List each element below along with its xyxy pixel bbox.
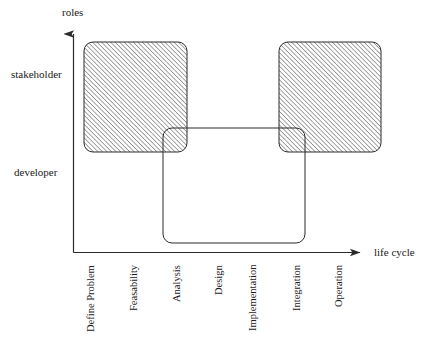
x-axis-tick-label: Implementation	[247, 265, 258, 331]
x-axis-tick-label: Feasability	[128, 265, 139, 311]
x-axis-title: life cycle	[374, 246, 415, 258]
y-axis-title: roles	[62, 6, 83, 18]
x-axis-tick-label: Define Problem	[85, 265, 96, 332]
x-axis-tick-label: Operation	[333, 265, 344, 307]
stakeholder-late-region	[279, 42, 381, 152]
roles-lifecycle-diagram: roles life cycle stakeholder developer D…	[0, 0, 427, 351]
role-label-stakeholder: stakeholder	[11, 68, 62, 80]
x-axis-tick-label: Analysis	[171, 265, 182, 302]
x-axis-tick-label: Design	[213, 265, 224, 295]
diagram-canvas	[0, 0, 427, 351]
x-axis-tick-label: Integration	[291, 265, 302, 311]
stakeholder-early-region	[84, 42, 187, 152]
role-label-developer: developer	[14, 166, 57, 178]
